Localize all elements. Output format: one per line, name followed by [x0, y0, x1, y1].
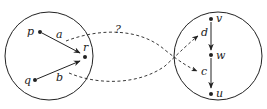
- label-q: q: [24, 74, 31, 87]
- node-q: [33, 78, 37, 82]
- node-p: [38, 30, 42, 34]
- node-v: [209, 17, 213, 21]
- label-u: u: [216, 87, 223, 100]
- label-v: v: [216, 12, 223, 25]
- label-w: w: [216, 49, 226, 62]
- label-a: a: [56, 28, 63, 41]
- node-w: [209, 53, 213, 57]
- label-c: c: [201, 65, 207, 78]
- label-r: r: [83, 41, 89, 54]
- label-question: ?: [115, 23, 121, 36]
- label-b: b: [56, 71, 63, 84]
- label-d: d: [201, 26, 208, 39]
- left-set-circle: [5, 12, 93, 100]
- node-r: [83, 55, 87, 59]
- label-p: p: [27, 25, 34, 38]
- node-u: [209, 92, 213, 96]
- diagram-canvas: p q r a b ? v w u d c: [0, 0, 267, 109]
